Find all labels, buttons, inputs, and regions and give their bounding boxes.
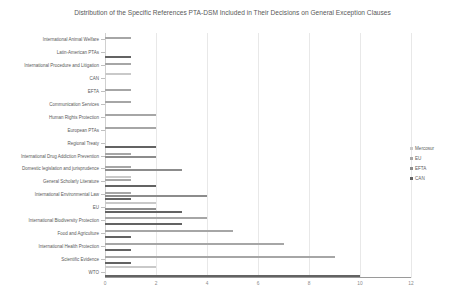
bar — [105, 101, 131, 103]
y-axis-tick-label: Food and Agriculture — [57, 230, 99, 235]
y-axis-tick — [101, 233, 105, 234]
bar — [105, 169, 182, 171]
plot-area — [105, 33, 411, 278]
legend-label: EFTA — [415, 166, 426, 171]
y-axis-tick-label: Latin-American PTAs — [57, 50, 99, 55]
y-axis-tick — [101, 272, 105, 273]
legend-swatch-icon — [410, 177, 413, 180]
legend-swatch-icon — [410, 147, 413, 150]
y-axis-tick — [101, 259, 105, 260]
x-axis-line — [105, 277, 411, 278]
x-axis-tick-label: 8 — [308, 281, 311, 286]
bar — [105, 217, 207, 219]
y-axis-tick-label: EU — [93, 205, 99, 210]
legend-swatch-icon — [410, 167, 413, 170]
legend-item-mercosur[interactable]: Mercosur — [410, 143, 453, 153]
bar — [105, 166, 131, 168]
y-axis-tick — [101, 52, 105, 53]
y-axis-tick — [101, 91, 105, 92]
chart-title: Distribution of the Specific References … — [55, 7, 410, 18]
bar — [105, 89, 131, 91]
legend-swatch-icon — [410, 157, 413, 160]
bar — [105, 63, 131, 65]
x-axis-tick-label: 12 — [408, 281, 413, 286]
x-axis-tick-label: 2 — [155, 281, 158, 286]
y-axis-tick — [101, 130, 105, 131]
bar — [105, 127, 156, 129]
legend-label: Mercosur — [415, 146, 434, 151]
bar — [105, 202, 156, 204]
bar — [105, 230, 233, 232]
y-axis-tick-label: Regional Treaty — [67, 140, 99, 145]
bar — [105, 156, 156, 158]
y-axis-tick-label: Communication Services — [49, 101, 99, 106]
bar — [105, 266, 156, 268]
bar — [105, 73, 131, 75]
bar — [105, 211, 182, 213]
y-axis-tick-label: International Drug Addiction Prevention — [21, 153, 99, 158]
chart-legend: MercosurEUEFTACAN — [410, 143, 453, 183]
y-axis-tick — [101, 78, 105, 79]
legend-item-efta[interactable]: EFTA — [410, 163, 453, 173]
x-axis-tick-label: 10 — [357, 281, 362, 286]
y-axis-tick-label: WTO — [89, 269, 99, 274]
y-axis-tick — [101, 39, 105, 40]
legend-label: EU — [415, 156, 421, 161]
y-axis-tick — [101, 143, 105, 144]
y-axis-labels: International Animal WelfareLatin-Americ… — [0, 33, 102, 278]
y-axis-tick-label: International Procedure and Litigation — [24, 63, 99, 68]
y-axis-tick-label: CAN — [89, 76, 99, 81]
x-axis-tick-label: 4 — [206, 281, 209, 286]
y-axis-tick-label: Human Rights Protection — [49, 114, 99, 119]
bar — [105, 243, 284, 245]
y-axis-tick — [101, 117, 105, 118]
bar — [105, 146, 156, 148]
bar — [105, 249, 131, 251]
x-axis-labels: 024681012 — [105, 281, 411, 295]
bar — [105, 223, 182, 225]
y-axis-tick-label: Domestic legislation and jurisprudence — [22, 166, 99, 171]
bar — [105, 176, 131, 178]
bar — [105, 185, 156, 187]
legend-item-eu[interactable]: EU — [410, 153, 453, 163]
bar — [105, 56, 131, 58]
y-axis-tick — [101, 246, 105, 247]
bar — [105, 195, 207, 197]
bar — [105, 37, 131, 39]
chart-container: Distribution of the Specific References … — [0, 0, 453, 303]
y-axis-tick — [101, 181, 105, 182]
bar — [105, 256, 335, 258]
y-axis-tick-label: European PTAs — [68, 127, 99, 132]
y-axis-tick-label: International Environmental Law — [35, 192, 99, 197]
y-axis-tick-label: International Biodiversity Protection — [28, 217, 99, 222]
bar — [105, 236, 131, 238]
bar — [105, 208, 156, 210]
bar — [105, 192, 131, 194]
y-axis-tick — [101, 65, 105, 66]
x-axis-tick-label: 0 — [104, 281, 107, 286]
y-axis-tick-label: Scientific Evidence — [61, 256, 99, 261]
legend-item-can[interactable]: CAN — [410, 173, 453, 183]
bar — [105, 262, 131, 264]
bar — [105, 114, 156, 116]
bar — [105, 153, 131, 155]
y-axis-tick — [101, 220, 105, 221]
y-axis-tick-label: International Animal Welfare — [43, 37, 99, 42]
y-axis-tick-label: General Scholarly Literature — [43, 179, 99, 184]
y-axis-tick — [101, 104, 105, 105]
x-axis-tick-label: 6 — [257, 281, 260, 286]
bar — [105, 198, 131, 200]
legend-label: CAN — [415, 176, 425, 181]
bar — [105, 179, 131, 181]
y-axis-tick-label: EFTA — [88, 89, 99, 94]
y-axis-tick-label: International Health Protection — [38, 243, 99, 248]
